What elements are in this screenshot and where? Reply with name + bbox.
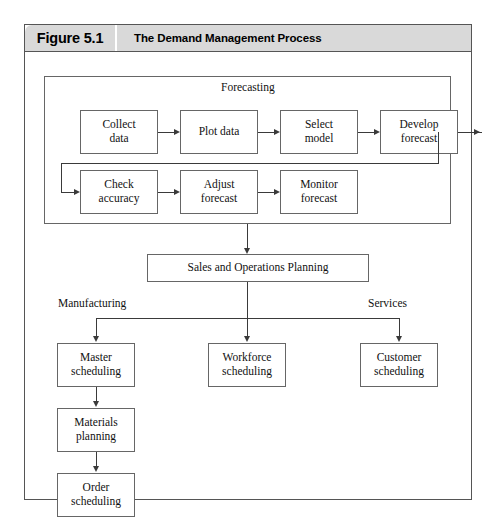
node-monitor-forecast: Monitor forecast: [280, 170, 358, 214]
arrow-adjust-to-monitor: [274, 189, 280, 195]
connector-loop-into-check: [61, 192, 74, 193]
node-collect-data-label: Collect data: [102, 118, 135, 145]
node-workforce-scheduling: Workforce scheduling: [208, 343, 286, 387]
node-collect-data: Collect data: [80, 110, 158, 154]
connector-adjust-to-monitor: [258, 192, 274, 193]
figure-header: Figure 5.1 The Demand Management Process: [25, 25, 471, 52]
figure-title-cell: The Demand Management Process: [117, 25, 471, 51]
arrow-collect-to-plot: [174, 129, 180, 135]
node-check-accuracy-label: Check accuracy: [99, 178, 140, 205]
node-adjust-forecast-label: Adjust forecast: [201, 178, 237, 205]
node-select-model-label: Select model: [305, 118, 334, 145]
connector-sop-down: [247, 282, 248, 318]
connector-check-to-adjust: [158, 192, 174, 193]
node-materials-planning-label: Materials planning: [74, 416, 117, 443]
branch-label-manufacturing: Manufacturing: [58, 297, 126, 309]
figure-number-cell: Figure 5.1: [25, 25, 117, 51]
arrow-loop-into-corner: [474, 129, 480, 135]
connector-master-to-materials: [96, 387, 97, 401]
connector-forecasting-to-sop: [247, 224, 248, 248]
forecasting-panel-label: Forecasting: [221, 81, 275, 93]
arrow-check-to-adjust: [174, 189, 180, 195]
node-plot-data-label: Plot data: [199, 125, 240, 139]
arrow-master-to-materials: [93, 401, 99, 407]
connector-loop-left-down: [61, 163, 62, 192]
arrow-drop-manufacturing: [93, 336, 99, 342]
node-workforce-scheduling-label: Workforce scheduling: [222, 351, 272, 378]
connector-loop-across: [61, 163, 439, 164]
node-plot-data: Plot data: [180, 110, 258, 154]
connector-drop-workforce: [247, 318, 248, 336]
node-order-scheduling: Order scheduling: [57, 473, 135, 517]
connector-drop-services: [399, 318, 400, 336]
node-order-scheduling-label: Order scheduling: [71, 481, 121, 508]
arrow-materials-to-order: [93, 466, 99, 472]
node-master-scheduling-label: Master scheduling: [71, 351, 121, 378]
node-develop-forecast: Develop forecast: [380, 110, 458, 154]
connector-loop-down: [438, 132, 439, 163]
figure-number-label: Figure 5.1: [37, 30, 104, 46]
node-customer-scheduling-label: Customer scheduling: [374, 351, 424, 378]
connector-select-to-develop: [358, 132, 374, 133]
connector-drop-manufacturing: [96, 318, 97, 336]
node-adjust-forecast: Adjust forecast: [180, 170, 258, 214]
node-check-accuracy: Check accuracy: [80, 170, 158, 214]
figure-frame: Figure 5.1 The Demand Management Process…: [24, 24, 472, 500]
connector-plot-to-select: [258, 132, 274, 133]
arrow-drop-services: [396, 336, 402, 342]
branch-label-services: Services: [368, 297, 407, 309]
node-sales-operations-planning-label: Sales and Operations Planning: [188, 261, 329, 275]
node-master-scheduling: Master scheduling: [57, 343, 135, 387]
figure-title-label: The Demand Management Process: [134, 32, 322, 44]
connector-collect-to-plot: [158, 132, 174, 133]
node-monitor-forecast-label: Monitor forecast: [300, 178, 338, 205]
arrow-drop-workforce: [244, 336, 250, 342]
diagram-canvas: Forecasting Collect data Plot data Selec…: [25, 52, 471, 499]
node-select-model: Select model: [280, 110, 358, 154]
node-materials-planning: Materials planning: [57, 408, 135, 452]
arrow-plot-to-select: [274, 129, 280, 135]
node-sales-operations-planning: Sales and Operations Planning: [147, 254, 369, 282]
node-develop-forecast-label: Develop forecast: [400, 118, 439, 145]
arrow-select-to-develop: [374, 129, 380, 135]
node-customer-scheduling: Customer scheduling: [360, 343, 438, 387]
connector-materials-to-order: [96, 452, 97, 466]
